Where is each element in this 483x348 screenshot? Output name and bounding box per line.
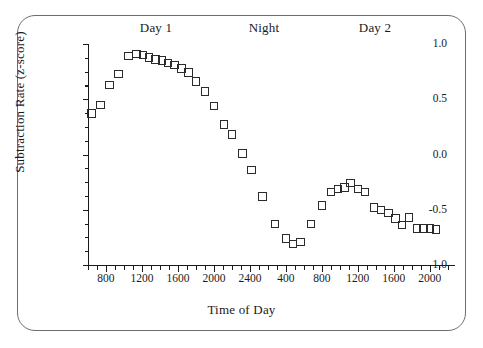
x-tick-label: 800 bbox=[97, 273, 114, 285]
y-tick-minor bbox=[85, 224, 89, 225]
x-tick-label: 1600 bbox=[382, 273, 405, 285]
y-tick-major bbox=[83, 99, 88, 100]
x-tick-minor bbox=[115, 266, 116, 270]
data-point-marker bbox=[432, 225, 441, 234]
x-tick-label: 1600 bbox=[166, 273, 189, 285]
data-point-marker bbox=[96, 101, 105, 110]
x-tick-minor bbox=[304, 266, 305, 270]
data-point-marker bbox=[228, 130, 237, 139]
x-tick-label: 1200 bbox=[346, 273, 369, 285]
x-tick-minor bbox=[259, 266, 260, 270]
data-point-marker bbox=[398, 221, 407, 230]
x-tick-label: 2000 bbox=[418, 273, 441, 285]
data-point-marker bbox=[192, 77, 201, 86]
y-tick-label: 0.0 bbox=[433, 149, 447, 161]
y-tick-minor bbox=[85, 196, 89, 197]
y-axis-title: Subtraction Rate (z-score) bbox=[12, 0, 28, 232]
y-tick-minor bbox=[85, 72, 89, 73]
period-label: Day 1 bbox=[140, 20, 172, 36]
x-tick-minor bbox=[151, 266, 152, 270]
plot-area: 1.00.50.0-0.5-1.0 8001200160020002400400… bbox=[88, 44, 455, 266]
y-tick-minor bbox=[85, 182, 89, 183]
y-tick-minor bbox=[85, 141, 89, 142]
x-tick-minor bbox=[124, 266, 125, 270]
data-point-marker bbox=[296, 238, 305, 247]
y-tick-minor bbox=[85, 85, 89, 86]
y-tick-major bbox=[83, 155, 88, 156]
data-point-marker bbox=[184, 68, 193, 77]
y-tick-major bbox=[83, 44, 88, 45]
x-tick-minor bbox=[223, 266, 224, 270]
y-tick-major bbox=[83, 210, 88, 211]
data-point-marker bbox=[201, 87, 210, 96]
x-tick-minor bbox=[205, 266, 206, 270]
data-point-marker bbox=[105, 81, 114, 90]
x-tick-label: 800 bbox=[313, 273, 330, 285]
period-label: Night bbox=[249, 20, 280, 36]
x-tick-label: 400 bbox=[277, 273, 294, 285]
data-point-marker bbox=[87, 109, 96, 118]
x-tick-minor bbox=[133, 266, 134, 270]
figure-root: Day 1NightDay 2 1.00.50.0-0.5-1.0 800120… bbox=[0, 0, 483, 348]
x-tick-minor bbox=[295, 266, 296, 270]
data-point-marker bbox=[258, 192, 267, 201]
x-tick-minor bbox=[241, 266, 242, 270]
y-tick-minor bbox=[85, 237, 89, 238]
x-tick-label: 1200 bbox=[130, 273, 153, 285]
data-point-marker bbox=[271, 220, 280, 229]
x-tick-minor bbox=[268, 266, 269, 270]
y-tick-label: 1.0 bbox=[433, 38, 447, 50]
y-axis-line bbox=[88, 44, 89, 266]
x-axis-title: Time of Day bbox=[0, 302, 483, 318]
data-point-marker bbox=[210, 102, 219, 111]
x-tick-minor bbox=[439, 266, 440, 270]
y-tick-minor bbox=[85, 251, 89, 252]
x-tick-minor bbox=[412, 266, 413, 270]
y-tick-minor bbox=[85, 58, 89, 59]
x-tick-minor bbox=[331, 266, 332, 270]
y-tick-label: 0.5 bbox=[433, 94, 447, 106]
x-tick-minor bbox=[97, 266, 98, 270]
data-point-marker bbox=[238, 149, 247, 158]
data-point-marker bbox=[220, 120, 229, 129]
x-tick-minor bbox=[232, 266, 233, 270]
x-tick-minor bbox=[187, 266, 188, 270]
period-label: Day 2 bbox=[359, 20, 391, 36]
y-tick-minor bbox=[85, 168, 89, 169]
x-tick-minor bbox=[169, 266, 170, 270]
data-point-marker bbox=[361, 188, 370, 197]
data-point-marker bbox=[307, 220, 316, 229]
x-tick-minor bbox=[349, 266, 350, 270]
x-tick-minor bbox=[448, 266, 449, 270]
x-tick-minor bbox=[421, 266, 422, 270]
data-point-marker bbox=[247, 166, 256, 175]
y-tick-minor bbox=[85, 127, 89, 128]
x-tick-minor bbox=[277, 266, 278, 270]
x-tick-label: 2400 bbox=[238, 273, 261, 285]
x-tick-minor bbox=[313, 266, 314, 270]
x-tick-minor bbox=[376, 266, 377, 270]
x-tick-minor bbox=[196, 266, 197, 270]
y-tick-label: -0.5 bbox=[429, 204, 447, 216]
x-tick-minor bbox=[385, 266, 386, 270]
data-point-marker bbox=[318, 201, 327, 210]
x-tick-minor bbox=[340, 266, 341, 270]
x-tick-label: 2000 bbox=[202, 273, 225, 285]
data-point-marker bbox=[114, 70, 123, 79]
x-tick-minor bbox=[367, 266, 368, 270]
x-tick-minor bbox=[403, 266, 404, 270]
x-tick-minor bbox=[88, 266, 89, 270]
data-point-marker bbox=[405, 213, 414, 222]
x-tick-minor bbox=[160, 266, 161, 270]
